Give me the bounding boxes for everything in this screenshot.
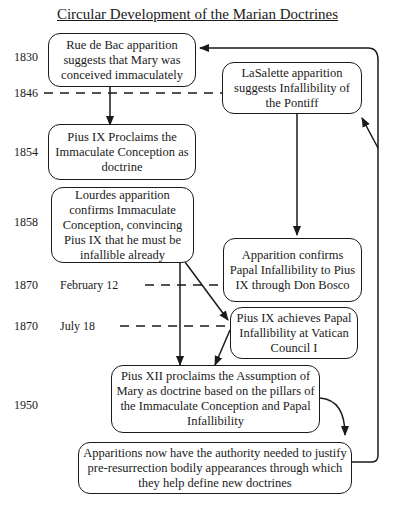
year-1846: 1846 [14,86,38,101]
box-rue-de-bac: Rue de Bac apparition suggests that Mary… [48,33,196,87]
box-pius-ix-ic: Pius IX Proclaims the Immaculate Concept… [48,124,196,180]
box-lasalette: LaSalette apparition suggests Infallibil… [222,62,362,114]
year-1858: 1858 [14,215,38,230]
year-1870-jul: 1870 [14,319,38,334]
year-1950: 1950 [14,398,38,413]
year-1870-feb: 1870 [14,278,38,293]
box-assumption: Pius XII proclaims the Assumption of Mar… [111,365,320,433]
box-don-bosco: Apparition confirms Papal Infallibility … [223,238,362,302]
box-lourdes: Lourdes apparition confirms Immaculate C… [51,187,194,263]
date-feb-12: February 12 [60,278,118,293]
year-1830: 1830 [14,50,38,65]
box-authority: Apparitions now have the authority neede… [78,442,352,494]
box-vatican: Pius IX achieves Papal Infallibility at … [230,307,358,359]
date-jul-18: July 18 [60,319,95,334]
year-1854: 1854 [14,145,38,160]
